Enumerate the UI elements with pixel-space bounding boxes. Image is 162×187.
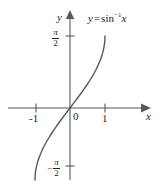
y-tick-label-pi-over-2: π 2 [52, 28, 59, 49]
origin-label: 0 [73, 111, 79, 122]
y-tick-label-neg-pi-over-2: − π 2 [47, 158, 60, 179]
y-axis-arrowhead [66, 10, 74, 19]
x-axis-label: x [146, 111, 151, 122]
x-tick-label-pos1: 1 [102, 113, 108, 124]
equation-function-name: sin [101, 12, 114, 24]
fraction-denominator: 2 [53, 169, 60, 178]
equation-operator: = [93, 12, 101, 24]
fraction-numerator: π [52, 28, 59, 37]
curve-equation-label: y=sin−1x [88, 13, 126, 24]
x-tick-label-neg1: -1 [29, 113, 38, 124]
fraction-pi-over-2: π 2 [52, 28, 59, 49]
equation-argument: x [121, 12, 126, 24]
fraction-denominator: 2 [52, 39, 59, 48]
fraction-pi-over-2: π 2 [53, 158, 60, 179]
minus-sign: − [47, 164, 52, 173]
fraction-numerator: π [53, 158, 60, 167]
y-axis-label: y [57, 12, 62, 23]
plot-canvas [0, 0, 162, 187]
arcsin-graph-figure: y x 0 -1 1 π 2 − π 2 y=sin−1x [0, 0, 162, 187]
